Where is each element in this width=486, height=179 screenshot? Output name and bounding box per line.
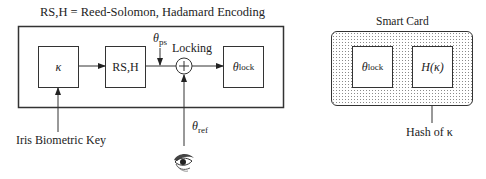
card-theta-lock-sub: lock — [368, 62, 384, 72]
rs-hadamard-box: RS,H — [105, 46, 146, 88]
theta-ref-label: θref — [192, 120, 208, 135]
hash-box: H(κ) — [412, 46, 453, 88]
key-label: κ — [56, 60, 62, 75]
hash-label: H(κ) — [421, 60, 443, 75]
card-theta-lock-box: θlock — [352, 46, 393, 88]
theta-lock-sub: lock — [239, 62, 255, 72]
locking-label: Locking — [172, 42, 212, 54]
key-box: κ — [38, 46, 79, 88]
eye-icon — [172, 151, 196, 173]
hash-caption: Hash of κ — [406, 126, 453, 138]
theta-ref-sub: ref — [198, 125, 208, 135]
theta-ps-label: θps — [153, 32, 167, 47]
theta-lock-box: θlock — [223, 46, 264, 88]
iris-key-caption: Iris Biometric Key — [16, 134, 106, 146]
rs-label: RS,H — [112, 60, 138, 75]
smart-card-title: Smart Card — [376, 16, 429, 28]
theta-ps-sub: ps — [159, 37, 167, 47]
